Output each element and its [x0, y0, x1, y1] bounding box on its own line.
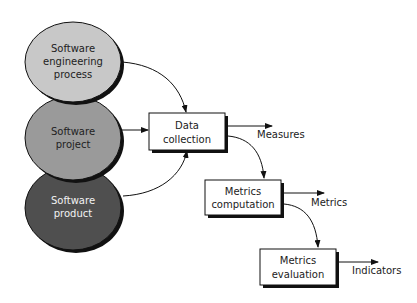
output-measures: Measures [257, 129, 305, 140]
source-label-line: process [54, 69, 92, 80]
metrics-process-diagram: Software product Software project Softwa… [0, 0, 417, 303]
step-metrics-evaluation: Metrics evaluation [260, 249, 339, 288]
source-label-line: project [56, 139, 91, 150]
source-software-project: Software project [25, 96, 124, 183]
arrow-product-to-collection [123, 151, 187, 196]
source-label-line: product [54, 208, 93, 219]
step-label-line: Metrics [225, 186, 261, 197]
step-data-collection: Data collection [149, 113, 228, 153]
arrow-process-to-collection [122, 62, 186, 112]
step-label-line: Metrics [280, 255, 316, 266]
step-label-line: evaluation [272, 269, 325, 280]
step-label-line: collection [163, 134, 211, 145]
source-label-line: Software [51, 195, 95, 206]
output-metrics: Metrics [311, 197, 347, 208]
output-indicators: Indicators [352, 265, 401, 276]
source-label-line: Software [51, 43, 95, 54]
step-label-line: Data [175, 120, 199, 131]
source-label-line: engineering [43, 56, 103, 67]
step-metrics-computation: Metrics computation [205, 180, 284, 218]
arrow-computation-to-evaluation [284, 204, 318, 247]
source-label-line: Software [51, 126, 95, 137]
arrow-collection-to-computation [228, 136, 264, 178]
step-label-line: computation [211, 199, 274, 210]
source-software-engineering-process: Software engineering process [25, 22, 124, 105]
